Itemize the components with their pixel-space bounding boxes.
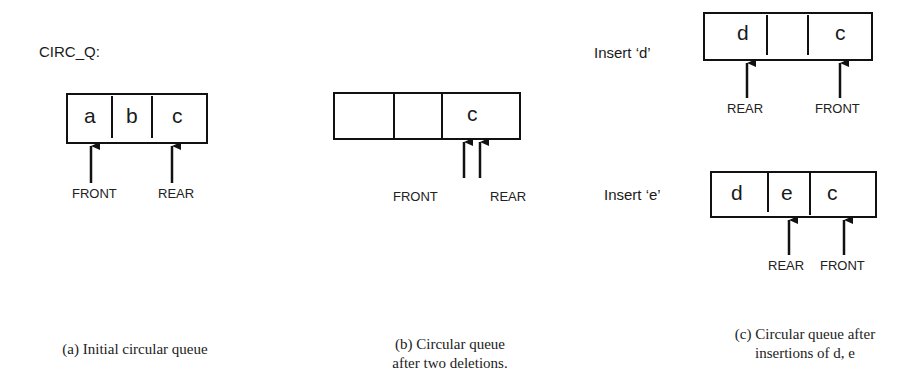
cell-value: e bbox=[781, 181, 793, 205]
cell-value: d bbox=[731, 181, 743, 205]
cell-value: c bbox=[172, 104, 183, 128]
caption-b: (b) Circular queue after two deletions. bbox=[350, 335, 550, 373]
caption-line: (c) Circular queue after bbox=[700, 325, 910, 344]
caption-line: (b) Circular queue bbox=[350, 335, 550, 354]
pointer-label-rear: REAR bbox=[768, 258, 804, 273]
caption-line: after two deletions. bbox=[350, 354, 550, 373]
pointer-label-front: FRONT bbox=[820, 258, 865, 273]
diagram-title: CIRC_Q: bbox=[39, 43, 100, 60]
cell-value: c bbox=[835, 21, 846, 45]
cell-value: c bbox=[827, 181, 838, 205]
caption-line: insertions of d, e bbox=[700, 344, 910, 363]
cell-value: c bbox=[467, 102, 478, 126]
queue-box-b bbox=[334, 93, 520, 139]
step-label-insert-e: Insert ‘e’ bbox=[604, 186, 661, 203]
pointer-label-rear: REAR bbox=[490, 189, 526, 204]
cell-value: a bbox=[84, 104, 96, 128]
step-label-insert-d: Insert ‘d’ bbox=[594, 44, 651, 61]
pointer-label-front: FRONT bbox=[72, 186, 117, 201]
queue-box-c1 bbox=[704, 13, 872, 60]
cell-value: d bbox=[737, 21, 749, 45]
caption-line: (a) Initial circular queue bbox=[30, 340, 240, 359]
pointer-label-rear: REAR bbox=[158, 186, 194, 201]
caption-c: (c) Circular queue after insertions of d… bbox=[700, 325, 910, 363]
pointer-label-front: FRONT bbox=[393, 189, 438, 204]
caption-a: (a) Initial circular queue bbox=[30, 340, 240, 359]
pointer-label-rear: REAR bbox=[727, 101, 763, 116]
cell-value: b bbox=[126, 104, 138, 128]
pointer-label-front: FRONT bbox=[815, 101, 860, 116]
